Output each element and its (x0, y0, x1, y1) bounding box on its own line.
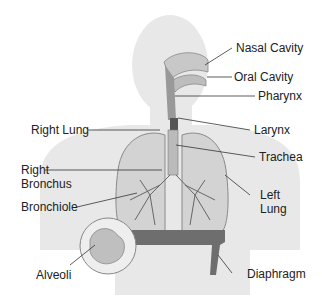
label-right-lung: Right Lung (31, 124, 89, 137)
label-bronchiole: Bronchiole (21, 201, 78, 214)
label-right-bronchus-line1: Right (21, 164, 49, 177)
label-alveoli: Alveoli (36, 269, 71, 282)
label-right-bronchus-line2: Bronchus (21, 178, 72, 191)
label-pharynx: Pharynx (258, 90, 302, 103)
label-larynx: Larynx (254, 124, 290, 137)
label-diaphragm: Diaphragm (247, 268, 306, 281)
label-left-lung-line1: Left (260, 189, 280, 202)
label-nasal-cavity: Nasal Cavity (236, 42, 303, 55)
label-trachea: Trachea (259, 151, 303, 164)
label-oral-cavity: Oral Cavity (234, 71, 293, 84)
trachea-shape (168, 130, 178, 175)
label-left-lung-line2: Lung (260, 203, 287, 216)
